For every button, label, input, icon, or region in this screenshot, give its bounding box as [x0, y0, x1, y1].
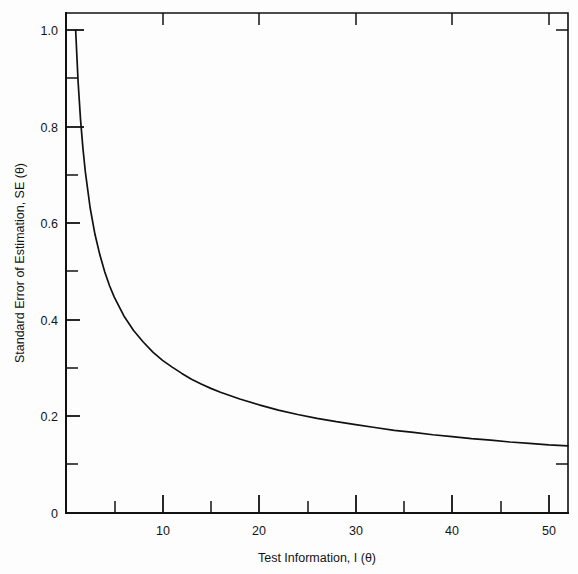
data-series-group	[76, 30, 568, 446]
right-frame-ticks	[556, 30, 568, 464]
x-axis-major-ticks	[163, 495, 549, 513]
y-axis-minor-ticks	[66, 78, 78, 464]
x-tick-label-20: 20	[252, 524, 266, 538]
x-axis-title: Test Information, I (θ)	[258, 551, 376, 565]
y-axis-tick-labels: 1.0 0.8 0.6 0.4 0.2 0	[41, 24, 58, 521]
x-tick-label-30: 30	[349, 524, 363, 538]
chart-figure: 1.0 0.8 0.6 0.4 0.2 0 10 20 30 40 50 Tes…	[0, 0, 578, 574]
y-tick-label-0: 0	[51, 507, 58, 521]
y-tick-label-0.4: 0.4	[41, 314, 58, 328]
y-axis-major-ticks	[66, 30, 84, 416]
y-tick-label-0.8: 0.8	[41, 121, 58, 135]
x-tick-label-10: 10	[156, 524, 170, 538]
y-axis-title: Standard Error of Estimation, SE (θ)	[13, 163, 27, 363]
frame-top-right-border	[66, 13, 568, 513]
x-axis-minor-ticks	[115, 501, 501, 513]
standard-error-vs-test-information-chart: 1.0 0.8 0.6 0.4 0.2 0 10 20 30 40 50 Tes…	[0, 0, 578, 574]
x-tick-label-50: 50	[542, 524, 556, 538]
top-frame-ticks	[163, 13, 549, 25]
y-tick-label-0.6: 0.6	[41, 217, 58, 231]
x-axis-tick-labels: 10 20 30 40 50	[156, 524, 556, 538]
x-tick-label-40: 40	[445, 524, 459, 538]
y-tick-label-0.2: 0.2	[41, 410, 58, 424]
plot-frame	[66, 13, 568, 513]
se-curve	[76, 30, 568, 446]
y-tick-label-1.0: 1.0	[41, 24, 58, 38]
